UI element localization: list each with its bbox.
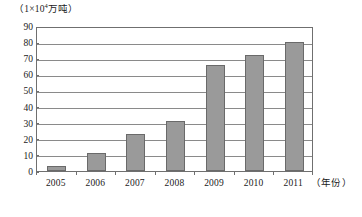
y-axis-tick-mark: [36, 107, 39, 108]
bar: [285, 42, 304, 171]
plot-area: [36, 27, 313, 172]
y-axis-tick-label: 20: [3, 135, 33, 145]
unit-caption-prefix: （1×10: [14, 4, 45, 14]
x-axis-tick-mark: [115, 172, 116, 175]
gridline: [37, 44, 312, 45]
x-axis-tick-label: 2011: [273, 177, 313, 189]
y-axis-labels: 0102030405060708090: [0, 27, 33, 172]
gridline: [37, 108, 312, 109]
y-axis-unit-caption: （1×104万吨）: [14, 3, 79, 15]
gridline: [37, 60, 312, 61]
x-axis-tick-marks: [36, 172, 313, 176]
y-axis-tick-label: 60: [3, 70, 33, 80]
x-axis-tick-label: 2009: [194, 177, 234, 189]
bar: [206, 65, 225, 171]
y-axis-tick-marks: [36, 27, 40, 172]
y-axis-tick-label: 80: [3, 38, 33, 48]
x-axis-tick-label: 2006: [76, 177, 116, 189]
y-axis-tick-mark: [36, 155, 39, 156]
bar-chart: （1×104万吨） 0102030405060708090 2005200620…: [0, 0, 362, 217]
x-axis-labels: 2005200620072008200920102011: [36, 177, 313, 193]
y-axis-tick-label: 10: [3, 151, 33, 161]
x-axis-tick-mark: [312, 172, 313, 175]
x-axis-tick-label: 2005: [36, 177, 76, 189]
x-axis-tick-label: 2008: [155, 177, 195, 189]
y-axis-tick-label: 40: [3, 103, 33, 113]
bar: [47, 166, 66, 171]
y-axis-tick-mark: [36, 91, 39, 92]
x-axis-tick-label: 2007: [115, 177, 155, 189]
unit-caption-suffix: 万吨）: [48, 4, 79, 14]
y-axis-tick-mark: [36, 43, 39, 44]
y-axis-tick-mark: [36, 59, 39, 60]
x-axis-title: （年份）: [311, 177, 352, 189]
gridline: [37, 92, 312, 93]
y-axis-tick-label: 90: [3, 22, 33, 32]
gridline: [37, 76, 312, 77]
x-axis-tick-mark: [234, 172, 235, 175]
x-axis-tick-mark: [76, 172, 77, 175]
y-axis-tick-mark: [36, 27, 39, 28]
x-axis-tick-label: 2010: [234, 177, 274, 189]
x-axis-tick-mark: [155, 172, 156, 175]
bar: [245, 55, 264, 171]
y-axis-tick-label: 50: [3, 86, 33, 96]
bar: [166, 121, 185, 171]
y-axis-tick-mark: [36, 123, 39, 124]
bar: [126, 134, 145, 171]
y-axis-tick-mark: [36, 75, 39, 76]
y-axis-tick-label: 30: [3, 119, 33, 129]
x-axis-tick-mark: [194, 172, 195, 175]
y-axis-tick-label: 70: [3, 54, 33, 64]
x-axis-tick-mark: [36, 172, 37, 175]
bar: [87, 153, 106, 171]
y-axis-tick-label: 0: [3, 167, 33, 177]
x-axis-tick-mark: [273, 172, 274, 175]
y-axis-tick-mark: [36, 139, 39, 140]
